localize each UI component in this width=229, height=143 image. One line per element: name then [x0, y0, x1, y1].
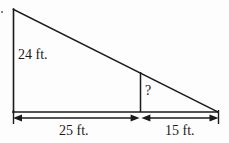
- label-unknown-height: ?: [145, 84, 151, 98]
- label-base-right-15ft: 15 ft.: [165, 124, 195, 138]
- label-height-24ft: 24 ft.: [18, 48, 48, 62]
- arrowhead-right-start: [141, 114, 150, 121]
- dimension-line-right: [141, 114, 218, 121]
- arrowhead-right-end: [210, 114, 219, 121]
- figure-canvas: 24 ft. ? 25 ft. 15 ft.: [0, 0, 229, 143]
- arrowhead-left-start: [13, 114, 22, 121]
- triangle-diagram: [0, 0, 229, 143]
- label-base-left-25ft: 25 ft.: [59, 124, 89, 138]
- dimension-line-left: [13, 114, 140, 121]
- arrowhead-left-end: [131, 114, 140, 121]
